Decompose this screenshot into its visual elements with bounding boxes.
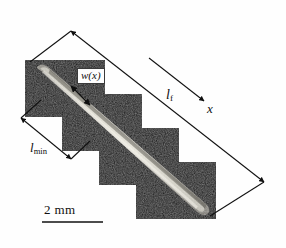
label-axis-x: x [207, 102, 213, 115]
lf-extension-right [210, 182, 264, 216]
lf-extension-left [30, 31, 71, 62]
label-lf-subscript: f [170, 93, 173, 103]
label-scale-bar: 2 mm [44, 203, 76, 216]
figure-graphics [0, 0, 286, 248]
label-length-min: lmin [30, 141, 47, 155]
x-axis-line [149, 58, 204, 101]
label-length-full: lf [166, 88, 173, 103]
label-lmin-subscript: min [34, 146, 47, 156]
figure-container: lf x lmin w(x) 2 mm [0, 0, 286, 248]
label-width-function: w(x) [77, 68, 105, 84]
axis-arrow-x [149, 58, 204, 101]
